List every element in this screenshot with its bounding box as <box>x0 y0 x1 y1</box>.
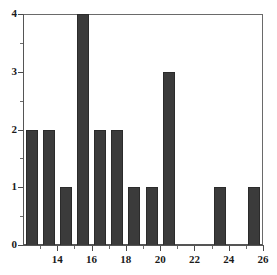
histogram-bar <box>77 14 89 245</box>
x-axis-minor-tick <box>74 246 75 249</box>
x-axis-tick <box>126 246 127 251</box>
x-axis-minor-tick <box>246 246 247 249</box>
histogram-bar <box>128 187 140 245</box>
x-axis-tick-label: 26 <box>251 253 275 265</box>
histogram-bar <box>214 187 226 245</box>
x-axis-minor-tick <box>177 246 178 249</box>
histogram-bar <box>43 130 55 246</box>
y-axis-tick-label: 2 <box>1 124 17 135</box>
x-axis-tick <box>160 246 161 251</box>
x-axis-minor-tick <box>212 246 213 249</box>
y-axis-tick-label: 3 <box>1 66 17 77</box>
x-axis-tick <box>263 246 264 251</box>
bars-layer <box>23 14 263 245</box>
y-axis-labels: 01234 <box>0 0 17 275</box>
histogram-bar <box>94 130 106 246</box>
histogram-bar <box>163 72 175 245</box>
y-axis-minor-tick <box>20 101 23 102</box>
histogram-bar <box>146 187 158 245</box>
histogram-bar <box>60 187 72 245</box>
y-axis-tick-label: 4 <box>1 8 17 19</box>
y-axis-tick <box>18 72 23 73</box>
x-axis-tick <box>92 246 93 251</box>
y-axis-tick <box>18 14 23 15</box>
x-axis-tick-label: 24 <box>217 253 241 265</box>
x-axis-tick-label: 18 <box>114 253 138 265</box>
y-axis-minor-tick <box>20 43 23 44</box>
x-axis-minor-tick <box>109 246 110 249</box>
y-axis-tick <box>18 187 23 188</box>
x-axis-tick <box>229 246 230 251</box>
x-axis-tick <box>194 246 195 251</box>
y-axis-tick-label: 1 <box>1 181 17 192</box>
x-axis-tick-label: 14 <box>45 253 69 265</box>
histogram-bar <box>26 130 38 246</box>
x-axis-minor-tick <box>143 246 144 249</box>
y-axis-minor-tick <box>20 216 23 217</box>
histogram-chart: 01234 14161820222426 <box>0 0 277 275</box>
x-axis-minor-tick <box>40 246 41 249</box>
histogram-bar <box>248 187 260 245</box>
y-axis-line <box>23 14 24 246</box>
y-axis-minor-tick <box>20 158 23 159</box>
y-axis-tick <box>18 130 23 131</box>
y-axis-tick-label: 0 <box>1 239 17 250</box>
x-axis-tick-label: 16 <box>80 253 104 265</box>
x-axis-tick <box>57 246 58 251</box>
x-axis-tick-label: 22 <box>182 253 206 265</box>
x-axis-tick-label: 20 <box>148 253 172 265</box>
histogram-bar <box>111 130 123 246</box>
